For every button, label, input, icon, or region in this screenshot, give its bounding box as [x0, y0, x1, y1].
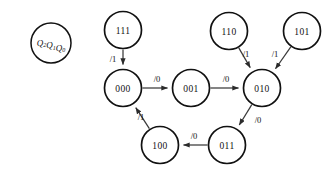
edge-label: /0 — [191, 131, 198, 141]
state-node-001[interactable]: 001 — [173, 70, 210, 107]
state-node-label: 100 — [152, 141, 167, 151]
edge-110-to-010: /1 — [239, 48, 250, 68]
edge-001-to-010: /0 — [211, 74, 239, 88]
state-node-101[interactable]: 101 — [284, 13, 321, 50]
state-node-010[interactable]: 010 — [244, 70, 281, 107]
edge-label: /1 — [243, 49, 250, 59]
edge-label: /0 — [154, 74, 161, 84]
state-node-label: 011 — [219, 141, 234, 151]
state-node-111[interactable]: 111 — [105, 12, 142, 49]
edge-label: /1 — [272, 49, 279, 59]
edge-010-to-011: /0 — [239, 105, 261, 125]
state-node-011[interactable]: 011 — [209, 127, 246, 164]
edge-label: /0 — [255, 115, 262, 125]
state-node-label: 001 — [183, 84, 198, 94]
edge-011-to-100: /0 — [184, 131, 208, 145]
state-diagram-canvas: /1/0/0/1/1/0/0/1 11100000101011010110001… — [0, 0, 331, 174]
edge-000-to-001: /0 — [143, 74, 168, 88]
state-node-100[interactable]: 100 — [142, 127, 179, 164]
edge-101-to-010: /1 — [272, 47, 291, 69]
edge-label: /1 — [110, 54, 117, 64]
edge-111-to-000: /1 — [110, 50, 123, 65]
state-node-label: 010 — [254, 84, 269, 94]
state-node-label: 110 — [221, 27, 236, 37]
diagram-svg: /1/0/0/1/1/0/0/1 11100000101011010110001… — [0, 0, 331, 174]
edge-100-to-000: /1 — [136, 108, 150, 129]
state-node-label: 000 — [115, 84, 130, 94]
edge-label: /0 — [223, 74, 230, 84]
state-node-label: 111 — [116, 26, 131, 36]
edge-line — [239, 105, 251, 125]
state-variable-legend: Q2Q1Q0 — [31, 23, 71, 63]
edge-label: /1 — [138, 112, 145, 122]
state-node-000[interactable]: 000 — [105, 70, 142, 107]
state-node-label: 101 — [294, 27, 309, 37]
state-node-110[interactable]: 110 — [211, 13, 248, 50]
